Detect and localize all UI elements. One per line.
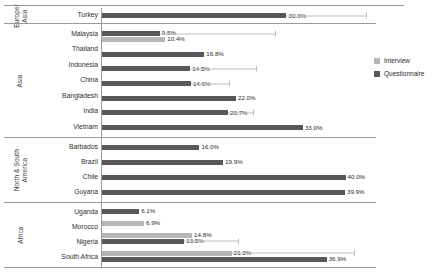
bar-chart: Europe/ AsiaTurkey30.3%AsiaMalaysiaThail… <box>0 0 440 280</box>
category-bar-group: 9.5%10.4% <box>102 31 376 42</box>
category-bar-group: 21.3%36.9% <box>102 251 376 262</box>
category-label: Indonesia <box>38 62 98 69</box>
bar-questionnaire[interactable] <box>102 96 236 101</box>
legend-item-interview[interactable]: Interview <box>374 58 436 65</box>
bar-interview[interactable] <box>102 233 192 238</box>
category-label: Turkey <box>38 12 98 19</box>
category-bar-group: 14.8%13.5% <box>102 233 376 244</box>
category-label: Thailand <box>38 46 98 53</box>
error-bar-whisker <box>160 33 276 34</box>
bar-value-label: 19.9% <box>225 159 243 165</box>
bar-interview[interactable] <box>102 251 232 256</box>
bar-questionnaire[interactable] <box>102 125 303 130</box>
chart-legend: InterviewQuestionnaire <box>374 58 436 83</box>
bar-value-label: 10.4% <box>167 36 185 42</box>
bar-questionnaire[interactable] <box>102 110 228 115</box>
region-block: AfricaUgandaMoroccoNigeriaSouth Africa6.… <box>4 203 376 268</box>
bar-row[interactable]: 30.3% <box>102 13 376 18</box>
bar-row[interactable]: 40.0% <box>102 175 376 180</box>
bar-row[interactable]: 36.9% <box>102 257 376 262</box>
category-label: Vietnam <box>38 124 98 131</box>
error-bar-whisker <box>228 112 254 113</box>
category-label: Chile <box>38 174 98 181</box>
category-label: India <box>38 108 98 115</box>
bar-questionnaire[interactable] <box>102 145 199 150</box>
bar-row[interactable]: 22.0% <box>102 96 376 101</box>
category-label-column: BarbadosBrazilChileGuyana <box>38 138 102 202</box>
bar-row[interactable]: 33.0% <box>102 125 376 130</box>
region-label-text: North & South America <box>13 149 29 191</box>
bar-questionnaire[interactable] <box>102 175 346 180</box>
category-bar-group: 14.5% <box>102 66 376 71</box>
error-bar-whisker <box>232 253 355 254</box>
error-bar-whisker <box>191 83 230 84</box>
category-label: Brazil <box>38 159 98 166</box>
bar-row[interactable]: 16.0% <box>102 145 376 150</box>
bar-questionnaire[interactable] <box>102 31 160 36</box>
error-bar-whisker <box>184 241 239 242</box>
category-bar-group: 19.9% <box>102 160 376 165</box>
bar-row[interactable]: 39.9% <box>102 190 376 195</box>
bar-questionnaire[interactable] <box>102 160 223 165</box>
bar-value-label: 6.9% <box>146 220 160 226</box>
bars-column: 6.1%6.9%14.8%13.5%21.3%36.9% <box>102 203 376 267</box>
category-label-column: Turkey <box>38 8 102 23</box>
region-label: Asia <box>4 24 38 137</box>
category-label: Morocco <box>38 224 98 231</box>
bars-column: 16.0%19.9%40.0%39.9% <box>102 138 376 202</box>
category-bar-group: 14.6% <box>102 81 376 86</box>
bar-row[interactable]: 9.5% <box>102 31 376 36</box>
bar-value-label: 22.0% <box>238 95 256 101</box>
bars-column: 30.3% <box>102 8 376 23</box>
bar-questionnaire[interactable] <box>102 257 327 262</box>
bar-row[interactable]: 14.6% <box>102 81 376 86</box>
bar-row[interactable]: 16.8% <box>102 52 376 57</box>
region-label: Europe/ Asia <box>4 8 38 23</box>
category-bar-group: 22.0% <box>102 96 376 101</box>
legend-item-questionnaire[interactable]: Questionnaire <box>374 71 436 78</box>
bar-questionnaire[interactable] <box>102 81 191 86</box>
bar-row[interactable]: 14.5% <box>102 66 376 71</box>
region-label-text: Asia <box>17 74 25 87</box>
category-bar-group: 6.9% <box>102 221 376 226</box>
bar-questionnaire[interactable] <box>102 52 204 57</box>
category-bar-group: 33.0% <box>102 125 376 130</box>
bar-row[interactable]: 14.8% <box>102 233 376 238</box>
region-label: Africa <box>4 203 38 267</box>
bar-row[interactable]: 6.9% <box>102 221 376 226</box>
error-bar-whisker <box>286 15 366 16</box>
bar-value-label: 33.0% <box>305 125 323 131</box>
bar-interview[interactable] <box>102 221 144 226</box>
bar-row[interactable]: 20.7% <box>102 110 376 115</box>
bars-column: 9.5%10.4%16.8%14.5%14.6%22.0%20.7%33.0% <box>102 24 376 137</box>
bar-questionnaire[interactable] <box>102 190 345 195</box>
legend-swatch-interview <box>374 58 380 64</box>
bar-interview[interactable] <box>102 37 165 42</box>
bar-row[interactable]: 10.4% <box>102 37 376 42</box>
category-label: Nigeria <box>38 239 98 246</box>
category-bar-group: 39.9% <box>102 190 376 195</box>
bar-value-label: 6.1% <box>141 208 155 214</box>
legend-swatch-questionnaire <box>374 71 380 77</box>
category-bar-group: 30.3% <box>102 13 376 18</box>
category-bar-group: 6.1% <box>102 209 376 214</box>
category-label: Barbados <box>38 144 98 151</box>
region-block: Europe/ AsiaTurkey30.3% <box>4 8 376 24</box>
category-bar-group: 20.7% <box>102 110 376 115</box>
legend-label: Questionnaire <box>384 71 424 78</box>
bar-questionnaire[interactable] <box>102 13 286 18</box>
bar-value-label: 40.0% <box>348 174 366 180</box>
bar-value-label: 16.0% <box>201 144 219 150</box>
bar-questionnaire[interactable] <box>102 209 139 214</box>
bar-row[interactable]: 6.1% <box>102 209 376 214</box>
bar-row[interactable]: 19.9% <box>102 160 376 165</box>
region-label-text: Africa <box>17 226 25 243</box>
category-label: Bangladesh <box>38 93 98 100</box>
bar-questionnaire[interactable] <box>102 239 184 244</box>
category-label: Malaysia <box>38 31 98 38</box>
bar-value-label: 36.9% <box>329 256 347 262</box>
bar-questionnaire[interactable] <box>102 66 190 71</box>
bar-row[interactable]: 13.5% <box>102 239 376 244</box>
category-bar-group: 40.0% <box>102 175 376 180</box>
region-block: North & South AmericaBarbadosBrazilChile… <box>4 138 376 203</box>
